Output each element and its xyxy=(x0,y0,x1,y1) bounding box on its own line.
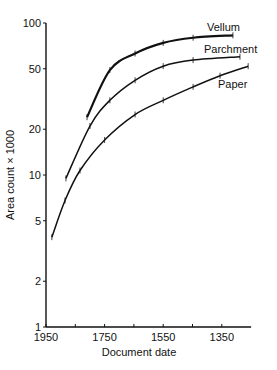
paper-label: Paper xyxy=(218,78,248,90)
y-tick-label: 2 xyxy=(35,275,41,287)
paper-curve xyxy=(52,66,248,237)
x-tick-label: 1950 xyxy=(34,331,58,343)
y-tick-label: 50 xyxy=(29,63,41,75)
y-tick-label: 10 xyxy=(29,169,41,181)
y-tick-label: 5 xyxy=(35,215,41,227)
parchment-label: Parchment xyxy=(204,43,257,55)
y-tick-label: 100 xyxy=(23,17,41,29)
x-tick-label: 1750 xyxy=(92,331,116,343)
parchment-curve xyxy=(66,57,240,179)
axes: 1251020501001950175015501350 xyxy=(23,17,251,343)
line-chart: 1251020501001950175015501350 VellumParch… xyxy=(0,0,277,370)
x-tick-label: 1350 xyxy=(210,331,234,343)
y-axis-title: Area count × 1000 xyxy=(4,130,16,220)
x-axis-title: Document date xyxy=(102,346,177,358)
series-group: VellumParchmentPaper xyxy=(52,21,257,240)
x-tick-label: 1550 xyxy=(151,331,175,343)
y-tick-label: 20 xyxy=(29,123,41,135)
vellum-label: Vellum xyxy=(207,21,240,33)
